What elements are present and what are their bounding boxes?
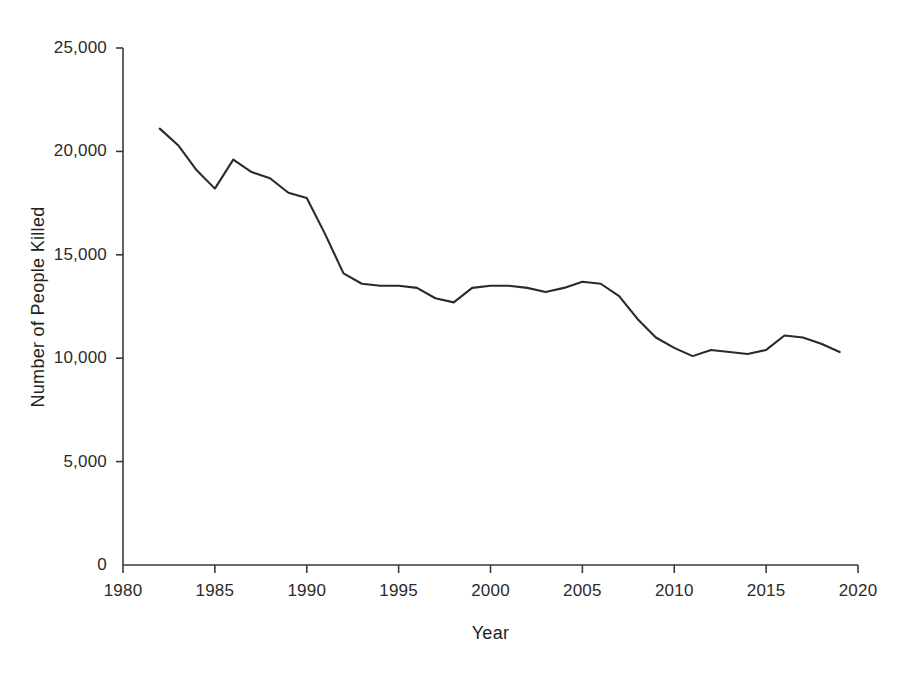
x-tick-label: 1985 [196, 581, 235, 601]
x-tick-label: 2005 [563, 581, 602, 601]
x-tick-label: 1990 [287, 581, 326, 601]
y-tick-label: 15,000 [0, 245, 107, 265]
y-tick-label: 25,000 [0, 38, 107, 58]
x-tick-label: 1995 [379, 581, 418, 601]
x-tick-label: 2010 [655, 581, 694, 601]
x-tick-label: 2000 [471, 581, 510, 601]
x-tick-label: 1980 [104, 581, 143, 601]
data-series-line [160, 129, 840, 356]
y-tick-label: 20,000 [0, 141, 107, 161]
x-axis-title: Year [0, 623, 912, 644]
line-chart: 05,00010,00015,00020,00025,000 198019851… [0, 0, 912, 686]
y-tick-label: 10,000 [0, 348, 107, 368]
y-axis-title: Number of People Killed [28, 206, 49, 407]
y-tick-label: 5,000 [0, 452, 107, 472]
y-tick-marks [116, 48, 123, 462]
x-tick-marks [123, 565, 858, 573]
x-tick-label: 2020 [839, 581, 878, 601]
axes [123, 48, 858, 565]
y-tick-label: 0 [0, 555, 107, 575]
x-tick-label: 2015 [747, 581, 786, 601]
